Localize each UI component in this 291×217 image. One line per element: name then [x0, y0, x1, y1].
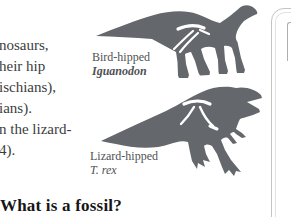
text-line: n the lizard- [0, 119, 109, 140]
text-line: ischians), [0, 77, 109, 98]
book-page: nosaurs, heir hip ischians), ians). n th… [0, 0, 291, 217]
lizard-hipped-label: Lizard-hipped T. rex [90, 149, 158, 177]
species-label: T. rex [90, 163, 158, 177]
section-heading: What is a fossil? [0, 196, 122, 216]
hip-type-label: Lizard-hipped [90, 149, 158, 163]
sidebar-card-photo-edge [287, 22, 291, 61]
bird-hipped-label: Bird-hipped Iguanodon [92, 50, 150, 78]
hip-type-label: Bird-hipped [92, 50, 150, 64]
species-label: Iguanodon [92, 64, 150, 78]
text-line: ians). [0, 98, 109, 119]
